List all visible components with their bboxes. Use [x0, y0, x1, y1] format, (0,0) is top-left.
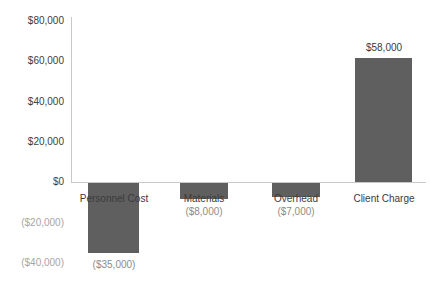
bar-category-label: Overhead: [255, 193, 337, 204]
bar-value-label: ($7,000): [255, 206, 337, 217]
bar-category-label: Client Charge: [340, 193, 428, 204]
bar-chart: $80,000$60,000$40,000$20,000$0($20,000)(…: [0, 0, 430, 289]
plot-area: Personnel Cost($35,000)Materials($8,000)…: [0, 0, 430, 289]
bar[interactable]: [355, 58, 412, 182]
bar-value-label: ($35,000): [70, 259, 158, 270]
bar-category-label: Personnel Cost: [70, 193, 158, 204]
bar-value-label: $58,000: [340, 42, 428, 53]
bar-category-label: Materials: [163, 193, 245, 204]
bar-value-label: ($8,000): [163, 206, 245, 217]
